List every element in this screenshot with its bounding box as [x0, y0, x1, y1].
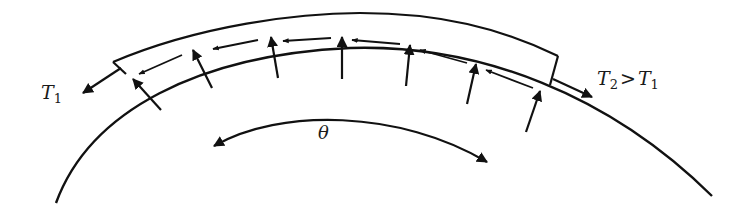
- belt-friction-diagram: [0, 0, 738, 212]
- tension-t2-label: T2>T1: [597, 69, 659, 91]
- t2-relation: >: [620, 67, 636, 89]
- theta-arc-arrow: [214, 120, 487, 162]
- belt-outer-edge: [113, 13, 558, 62]
- theta-label: θ: [318, 124, 329, 142]
- tension-t1-arrow: [83, 68, 121, 93]
- t1-symbol: T: [41, 81, 54, 103]
- normal-force-arrows: [133, 37, 540, 132]
- t2-rhs-subscript: 1: [651, 77, 659, 92]
- t2-symbol: T: [597, 67, 610, 89]
- t2-rhs-symbol: T: [638, 67, 651, 89]
- tension-t2-arrow: [553, 79, 592, 97]
- t2-subscript: 2: [610, 77, 618, 92]
- theta-symbol: θ: [318, 122, 329, 143]
- tension-t1-label: T1: [41, 83, 62, 105]
- t1-subscript: 1: [54, 91, 62, 106]
- friction-arrows: [139, 38, 533, 88]
